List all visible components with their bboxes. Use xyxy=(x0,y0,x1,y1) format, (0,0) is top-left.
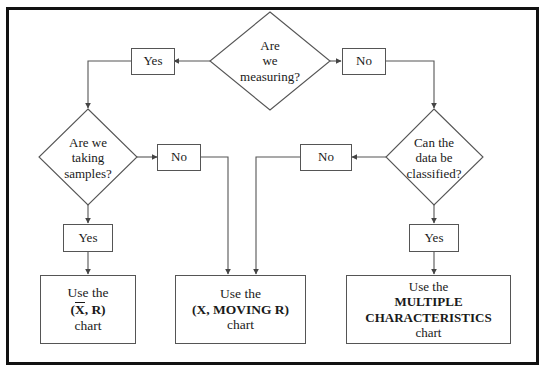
result-xbar-r-line-3: chart xyxy=(75,318,102,334)
result-xbar-r-suffix: , R) xyxy=(85,302,106,317)
answer-measuring-no[interactable]: No xyxy=(342,48,386,75)
result-xbar-r-chart[interactable]: Use the (X, R) chart xyxy=(40,275,136,344)
result-xbar-r-xbar-symbol: X xyxy=(75,302,85,317)
answer-classified-no-label: No xyxy=(318,150,334,164)
decision-taking-samples[interactable]: Are we taking samples? xyxy=(36,123,140,193)
decision-taking-samples-line-2: taking xyxy=(72,150,105,165)
answer-classified-yes[interactable]: Yes xyxy=(409,224,459,252)
decision-data-classified-line-2: data be xyxy=(415,150,452,165)
answer-measuring-yes-label: Yes xyxy=(144,54,163,68)
decision-taking-samples-line-3: samples? xyxy=(64,166,112,181)
answer-samples-yes-label: Yes xyxy=(79,231,98,245)
result-x-moving-r-line-3: chart xyxy=(227,317,254,333)
result-multiple-line-4: chart xyxy=(416,325,442,340)
decision-measuring-line-1: Are xyxy=(260,38,280,53)
decision-taking-samples-line-1: Are we xyxy=(69,135,107,150)
flowchart-canvas: Are we measuring? Are we taking samples?… xyxy=(0,0,548,375)
result-xbar-r-line-1: Use the xyxy=(68,285,109,301)
result-multiple-characteristics-chart[interactable]: Use the MULTIPLE CHARACTERISTICS chart xyxy=(346,275,511,344)
decision-measuring-line-2: we xyxy=(262,53,277,68)
answer-classified-no[interactable]: No xyxy=(300,144,352,171)
result-x-moving-r-chart[interactable]: Use the (X, MOVING R) chart xyxy=(175,275,306,344)
result-x-moving-r-line-2: (X, MOVING R) xyxy=(192,302,289,318)
decision-measuring[interactable]: Are we measuring? xyxy=(216,22,324,100)
result-x-moving-r-line-1: Use the xyxy=(220,286,261,302)
result-multiple-line-3: CHARACTERISTICS xyxy=(365,310,491,325)
result-multiple-line-1: Use the xyxy=(409,279,448,294)
answer-samples-yes[interactable]: Yes xyxy=(63,224,113,252)
decision-data-classified[interactable]: Can the data be classified? xyxy=(382,123,486,193)
result-xbar-r-line-2: (X, R) xyxy=(70,301,105,318)
answer-samples-no-label: No xyxy=(171,150,187,164)
result-multiple-line-2: MULTIPLE xyxy=(394,294,462,309)
answer-samples-no[interactable]: No xyxy=(157,144,201,171)
decision-measuring-line-3: measuring? xyxy=(240,69,300,84)
decision-data-classified-line-1: Can the xyxy=(414,135,454,150)
decision-data-classified-line-3: classified? xyxy=(407,166,462,181)
answer-measuring-yes[interactable]: Yes xyxy=(131,48,175,75)
answer-measuring-no-label: No xyxy=(356,54,372,68)
answer-classified-yes-label: Yes xyxy=(425,231,444,245)
